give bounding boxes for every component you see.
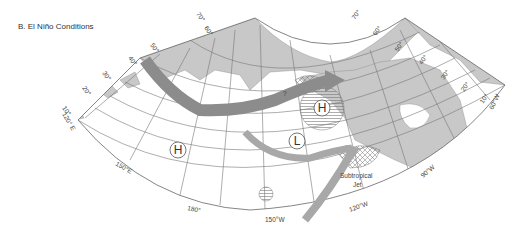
svg-text:H: H — [318, 101, 327, 115]
svg-text:40°: 40° — [127, 55, 139, 67]
svg-text:30°: 30° — [101, 70, 113, 82]
high-pressure-canada: H — [314, 100, 330, 116]
el-nino-map: H H L ? Subtropical Jet 10° 20° 30° 40° … — [0, 0, 511, 236]
svg-text:70°: 70° — [195, 11, 207, 23]
jet-label-line2: Jet — [353, 181, 362, 188]
subtropical-jet-stream — [305, 152, 352, 220]
high-pressure-pacific: H — [170, 142, 186, 158]
question-mark-label: ? — [283, 90, 287, 97]
svg-text:H: H — [174, 143, 183, 157]
svg-text:180°: 180° — [187, 204, 202, 214]
svg-text:120°W: 120°W — [348, 199, 370, 213]
svg-text:150°W: 150°W — [265, 216, 285, 223]
svg-text:20°: 20° — [81, 85, 93, 97]
svg-text:90°W: 90°W — [419, 163, 436, 179]
svg-text:150°E: 150°E — [115, 160, 134, 175]
svg-text:60°: 60° — [371, 24, 383, 36]
svg-text:120° E: 120° E — [61, 111, 77, 132]
svg-text:60°W: 60°W — [488, 92, 501, 110]
anomaly-pacific-hatch — [259, 187, 273, 201]
svg-text:70°: 70° — [350, 8, 362, 20]
svg-text:10°: 10° — [478, 92, 490, 104]
svg-text:30°: 30° — [439, 68, 451, 80]
jet-label-line1: Subtropical — [340, 172, 373, 180]
svg-text:20°: 20° — [459, 80, 471, 92]
low-pressure-pacific: L — [289, 133, 305, 149]
svg-text:L: L — [294, 134, 301, 148]
